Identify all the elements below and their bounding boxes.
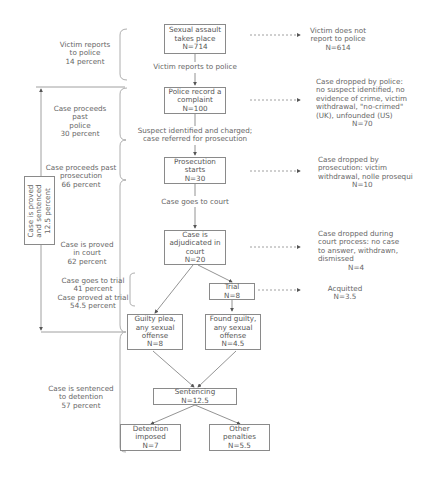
box-other-penalties: Other penalties N=5.5 <box>209 424 270 451</box>
outcome-dropped-prosecution: Case dropped by prosecution: victim with… <box>318 156 418 190</box>
side-reports: Victim reports to police 14 percent <box>50 41 120 66</box>
side-trial: Case goes to trial 41 percent Case prove… <box>56 277 130 311</box>
box-trial: Trial N=8 <box>209 283 255 300</box>
box-sentencing: Sentencing N=12.5 <box>153 388 237 405</box>
box-assault: Sexual assault takes place N=714 <box>164 24 226 54</box>
label-to-court: Case goes to court <box>150 198 240 206</box>
label-charged: Suspect identified and charged; case ref… <box>132 127 258 144</box>
side-sentenced: Case is sentenced to detention 57 percen… <box>45 385 117 410</box>
side-past-prosecution: Case proceeds past prosecution 66 percen… <box>45 164 117 189</box>
side-past-police: Case proceeds past police 30 percent <box>45 105 115 139</box>
outcome-dropped-police: Case dropped by police: no suspect ident… <box>316 78 416 128</box>
label-reports: Victim reports to police <box>150 63 240 71</box>
box-police: Police record a complaint N=100 <box>164 87 226 114</box>
side-proved: Case is proved in court 62 percent <box>52 241 122 266</box>
outcome-no-report: Victim does not report to police N=614 <box>303 27 373 52</box>
box-guilty-plea: Guilty plea, any sexual offense N=8 <box>127 314 183 350</box>
outcome-dropped-court: Case dropped during court process: no ca… <box>318 230 418 272</box>
box-detention: Detention imposed N=7 <box>120 424 181 451</box>
box-adjudicated: Case is adjudicated in court N=20 <box>164 230 226 265</box>
outcome-acquitted: Acquitted N=3.5 <box>320 285 370 302</box>
box-prosecution: Prosecution starts N=30 <box>164 157 226 184</box>
box-found-guilty: Found guilty, any sexual offense N=4.5 <box>205 314 261 350</box>
